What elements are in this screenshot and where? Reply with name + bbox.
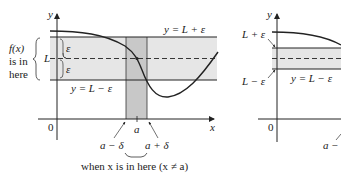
a-plus-delta-label: a + δ xyxy=(145,139,169,151)
upper-label: L + ε xyxy=(241,28,266,40)
fx-brace xyxy=(33,38,40,80)
right-origin-label: 0 xyxy=(268,121,274,133)
epsilon-delta-figure: y x 0 y = L + ε y = L − ε L ε ε f(x) is … xyxy=(0,0,341,181)
caption: when x is in here (x ≠ a) xyxy=(81,160,188,173)
lower-label: L − ε xyxy=(241,75,266,87)
right-lower-line-label: y = L − ε xyxy=(290,72,333,84)
right-a-minus-label: a − xyxy=(323,139,339,151)
y-axis-label: y xyxy=(47,8,53,20)
a-minus-delta-label: a − δ xyxy=(100,139,124,151)
delta-brace xyxy=(125,153,147,157)
a-label: a xyxy=(134,123,140,135)
epsilon-upper-label: ε xyxy=(66,42,71,54)
right-y-axis-label: y xyxy=(266,8,272,20)
lower-line-label: y = L − ε xyxy=(70,82,113,94)
fx-label: f(x) xyxy=(9,42,25,55)
L-label: L xyxy=(43,52,50,64)
right-diagram: y 0 L + ε L − ε y = L − ε a − xyxy=(241,8,341,151)
left-diagram: y x 0 y = L + ε y = L − ε L ε ε f(x) is … xyxy=(9,8,218,173)
right-function-curve xyxy=(272,32,341,45)
upper-line-label: y = L + ε xyxy=(163,23,206,35)
origin-label: 0 xyxy=(48,121,54,133)
epsilon-lower-label: ε xyxy=(66,63,71,75)
point-a-L xyxy=(135,57,138,60)
fx-label-line3: here xyxy=(9,68,28,80)
fx-label-line2: is in xyxy=(9,55,28,67)
x-axis-label: x xyxy=(209,121,215,133)
